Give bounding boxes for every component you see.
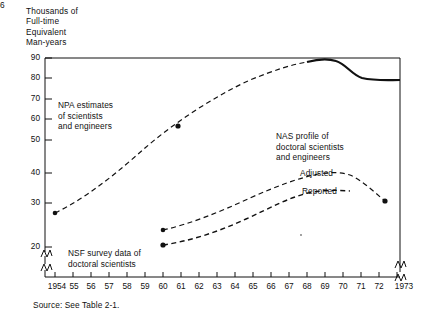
series-label-adjusted: Adjusted xyxy=(300,168,333,179)
series-nsf-reported xyxy=(163,190,350,245)
x-tick-label-62: 62 xyxy=(194,281,203,291)
x-tick-label-66: 66 xyxy=(266,281,275,291)
y-axis-break-icon xyxy=(41,250,52,277)
x-tick-label-72: 72 xyxy=(374,281,383,291)
x-tick-label-68: 68 xyxy=(302,281,311,291)
series-nas-solid xyxy=(307,59,400,80)
y-tick-label-90: 90 xyxy=(22,52,40,62)
x-tick-label-59: 59 xyxy=(140,281,149,291)
y-tick-label-30: 30 xyxy=(22,197,40,207)
x-tick-label-56b: 56 xyxy=(86,281,95,291)
y-tick-label-60: 60 xyxy=(22,113,40,123)
x-tick-label-58: 58 xyxy=(122,281,131,291)
source-note: Source: See Table 2-1. xyxy=(33,300,119,310)
x-axis-ticks xyxy=(55,272,397,277)
x-tick-label-70: 70 xyxy=(338,281,347,291)
y-axis-ticks xyxy=(45,58,52,247)
y-tick-label-50: 50 xyxy=(22,134,40,144)
x-tick-label-69: 69 xyxy=(320,281,329,291)
x-tick-label-57: 57 xyxy=(104,281,113,291)
y-tick-label-70: 70 xyxy=(22,93,40,103)
x-tick-label-1954: 1954 xyxy=(48,281,66,291)
annotation-nas-profile: NAS profile of doctoral scientists and e… xyxy=(276,131,344,163)
y-tick-label-80: 80 xyxy=(22,72,40,82)
x-tick-label-56: 56 xyxy=(0,0,5,10)
x-tick-label-55: 55 xyxy=(69,281,78,291)
y-tick-label-20: 20 xyxy=(22,241,40,251)
x-tick-label-61: 61 xyxy=(176,281,185,291)
x-tick-label-71: 71 xyxy=(356,281,365,291)
chart-canvas xyxy=(0,0,435,321)
chart-figure: Thousands of Full-time Equivalent Man-ye… xyxy=(0,0,435,321)
annotation-nsf-survey: NSF survey data of doctoral scientists xyxy=(68,248,141,269)
x-tick-label-64: 64 xyxy=(230,281,239,291)
annotation-npa-estimates: NPA estimates of scientists and engineer… xyxy=(58,100,113,132)
x-tick-label-1973: 1973 xyxy=(395,281,413,291)
x-tick-label-63: 63 xyxy=(212,281,221,291)
y-tick-label-40: 40 xyxy=(22,167,40,177)
x-tick-label-65: 65 xyxy=(248,281,257,291)
plot-frame xyxy=(45,58,400,277)
x-tick-label-60: 60 xyxy=(158,281,167,291)
series-nsf-adjusted xyxy=(163,173,385,230)
series-label-reported: Reported xyxy=(302,186,337,197)
x-tick-label-67: 67 xyxy=(284,281,293,291)
